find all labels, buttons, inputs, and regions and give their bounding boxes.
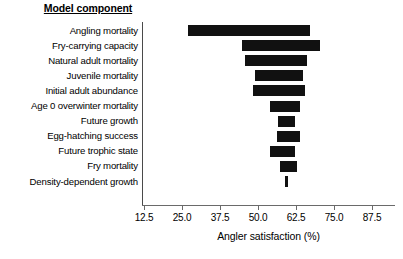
category-label: Density-dependent growth xyxy=(0,176,138,187)
category-label: Fry-carrying capacity xyxy=(0,40,138,51)
value-axis-tick-labels: 12.525.037.550.062.575.087.5 xyxy=(0,212,403,226)
bar xyxy=(255,70,303,81)
tick-mark xyxy=(372,206,373,210)
category-label: Future trophic state xyxy=(0,145,138,156)
bar xyxy=(270,146,295,157)
tick-mark xyxy=(144,206,145,210)
category-label: Natural adult mortality xyxy=(0,55,138,66)
category-label: Age 0 overwinter mortality xyxy=(0,100,138,111)
tick-label: 87.5 xyxy=(349,212,395,223)
category-label: Fry mortality xyxy=(0,160,138,171)
bar xyxy=(253,85,305,96)
category-label: Juvenile mortality xyxy=(0,70,138,81)
bar xyxy=(188,25,310,36)
bar xyxy=(270,101,300,112)
category-label: Future growth xyxy=(0,115,138,126)
category-label: Angling mortality xyxy=(0,25,138,36)
bar xyxy=(285,176,288,187)
bar xyxy=(242,40,320,51)
bar xyxy=(280,161,297,172)
tick-mark xyxy=(182,206,183,210)
tick-mark xyxy=(296,206,297,210)
bar xyxy=(278,116,295,127)
value-axis-title: Angler satisfaction (%) xyxy=(142,230,395,242)
tick-mark xyxy=(220,206,221,210)
tornado-chart: Model component Angling mortalityFry-car… xyxy=(0,0,403,259)
category-axis-labels: Angling mortalityFry-carrying capacityNa… xyxy=(0,22,138,205)
category-axis-title: Model component xyxy=(33,2,143,14)
tick-mark xyxy=(334,206,335,210)
tick-mark xyxy=(258,206,259,210)
category-label: Initial adult abundance xyxy=(0,85,138,96)
bar xyxy=(245,55,307,66)
category-label: Egg-hatching success xyxy=(0,130,138,141)
bar xyxy=(277,131,300,142)
plot-area xyxy=(142,22,403,205)
